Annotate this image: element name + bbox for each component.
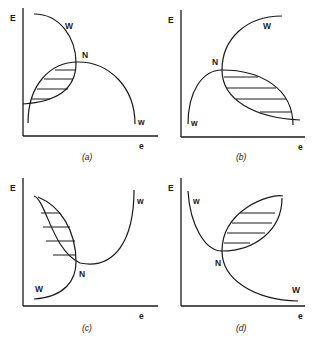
y-axis-label: E [10,183,16,193]
curve-w [188,191,282,251]
label-N: N [82,50,88,60]
label-w: w [136,196,144,206]
caption: (a) [82,152,93,162]
curve-w [28,62,135,124]
caption: (d) [236,323,247,333]
label-W: W [35,284,44,294]
label-N: N [215,258,221,268]
curve-w [188,70,293,125]
label-w: w [192,196,200,206]
panel-c: E e w N W (c) [10,178,158,333]
panel-a: E e W N w (a) [10,8,158,162]
label-W: W [263,21,272,31]
label-W: W [292,285,301,295]
caption: (b) [236,152,247,162]
caption: (c) [82,323,92,333]
curve-W [222,196,298,301]
x-axis-label: e [139,311,144,321]
label-N: N [212,57,218,67]
x-axis-label: e [298,142,303,152]
label-W: W [65,21,74,31]
y-axis-label: E [168,15,174,25]
figure-canvas: E e W N w (a) E e W N w (b) [0,0,316,342]
x-axis-label: e [139,141,144,151]
panel-b: E e W N w (b) [168,10,305,162]
label-w: w [137,117,145,127]
label-N: N [79,269,85,279]
label-w: w [190,118,198,128]
y-axis-label: E [168,183,174,193]
y-axis-label: E [10,13,16,23]
curve-W [222,16,300,120]
x-axis-label: e [298,311,303,321]
panel-d: E e w N W (d) [168,178,305,333]
